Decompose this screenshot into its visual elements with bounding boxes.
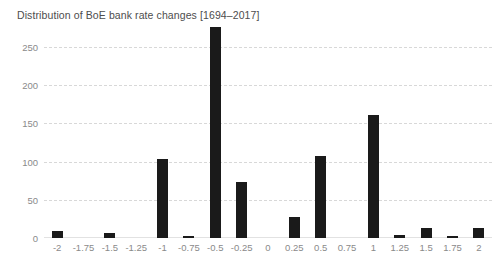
x-axis: -2-1.75-1.5-1.25-1-0.75-0.5-0.2500.250.5… xyxy=(44,242,492,262)
gridline xyxy=(44,200,492,201)
bar xyxy=(368,115,379,238)
x-tick-label: 0.25 xyxy=(285,242,304,253)
bar xyxy=(157,159,168,238)
x-tick-label: 1.75 xyxy=(443,242,462,253)
x-tick-label: 0.75 xyxy=(338,242,357,253)
plot-area xyxy=(44,28,492,238)
x-tick-label: 1.5 xyxy=(420,242,433,253)
bar xyxy=(104,233,115,238)
gridline xyxy=(44,162,492,163)
bar xyxy=(447,236,458,238)
x-tick-label: -1.5 xyxy=(102,242,118,253)
x-tick-label: 1 xyxy=(371,242,376,253)
y-tick-label: 50 xyxy=(4,194,38,205)
bar xyxy=(183,236,194,238)
chart-title: Distribution of BoE bank rate changes [1… xyxy=(17,9,259,21)
x-tick-label: -1.75 xyxy=(73,242,95,253)
gridline xyxy=(44,85,492,86)
y-tick-label: 200 xyxy=(4,80,38,91)
y-axis: 050100150200250 xyxy=(0,28,38,238)
bar xyxy=(289,217,300,238)
x-tick-label: -1 xyxy=(158,242,166,253)
y-tick-label: 100 xyxy=(4,156,38,167)
x-tick-label: -0.25 xyxy=(231,242,253,253)
x-tick-label: -0.5 xyxy=(207,242,223,253)
bar xyxy=(394,235,405,238)
x-tick-label: 2 xyxy=(476,242,481,253)
gridline xyxy=(44,123,492,124)
x-tick-label: 1.25 xyxy=(391,242,410,253)
y-tick-label: 0 xyxy=(4,233,38,244)
gridline xyxy=(44,47,492,48)
x-tick-label: -0.75 xyxy=(178,242,200,253)
bar xyxy=(473,228,484,238)
bar xyxy=(236,182,247,238)
bar xyxy=(52,231,63,238)
x-tick-label: -1.25 xyxy=(125,242,147,253)
x-tick-label: -2 xyxy=(53,242,61,253)
x-tick-label: 0.5 xyxy=(314,242,327,253)
bar xyxy=(421,228,432,238)
y-tick-label: 250 xyxy=(4,42,38,53)
bar xyxy=(315,156,326,238)
x-tick-label: 0 xyxy=(265,242,270,253)
bar xyxy=(210,27,221,238)
y-tick-label: 150 xyxy=(4,118,38,129)
bar-chart: Distribution of BoE bank rate changes [1… xyxy=(0,0,498,267)
